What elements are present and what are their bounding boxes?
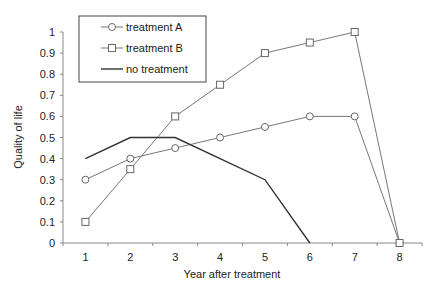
square-marker (396, 240, 403, 247)
y-tick-label: 0.5 (40, 132, 55, 144)
x-tick-label: 7 (352, 251, 358, 263)
legend-label: treatment A (126, 21, 183, 33)
series-line-treatment-A (85, 116, 399, 243)
y-tick-label: 0 (49, 237, 55, 249)
x-tick-label: 8 (397, 251, 403, 263)
x-tick-label: 4 (217, 251, 223, 263)
circle-marker (172, 145, 179, 152)
circle-marker (217, 134, 224, 141)
square-marker (351, 29, 358, 36)
circle-marker (261, 123, 268, 130)
x-tick-label: 6 (307, 251, 313, 263)
y-axis-label: Quality of life (12, 105, 24, 169)
y-tick-label: 0.4 (40, 153, 55, 165)
series-line-no-treatment (85, 138, 309, 244)
y-tick-label: 0.7 (40, 89, 55, 101)
circle-marker (82, 176, 89, 183)
square-marker (127, 166, 134, 173)
square-marker (217, 81, 224, 88)
circle-marker (351, 113, 358, 120)
square-marker-icon (109, 45, 116, 52)
legend-label: treatment B (126, 42, 183, 54)
y-tick-label: 0.1 (40, 216, 55, 228)
circle-marker-icon (109, 24, 116, 31)
circle-marker (306, 113, 313, 120)
y-tick-label: 0.6 (40, 110, 55, 122)
x-tick-label: 5 (262, 251, 268, 263)
square-marker (261, 50, 268, 57)
x-tick-label: 2 (127, 251, 133, 263)
circle-marker (127, 155, 134, 162)
square-marker (172, 113, 179, 120)
legend: treatment Atreatment Bno treatment (79, 16, 206, 82)
y-tick-label: 0.3 (40, 174, 55, 186)
y-tick-label: 0.2 (40, 195, 55, 207)
line-chart: 00.10.20.30.40.50.60.70.80.9112345678 tr… (0, 0, 438, 298)
legend-label: no treatment (126, 63, 188, 75)
y-tick-label: 0.8 (40, 68, 55, 80)
x-tick-label: 3 (172, 251, 178, 263)
x-axis-label: Year after treatment (184, 268, 281, 280)
x-tick-label: 1 (82, 251, 88, 263)
y-tick-label: 0.9 (40, 47, 55, 59)
square-marker (306, 39, 313, 46)
y-tick-label: 1 (49, 26, 55, 38)
square-marker (82, 218, 89, 225)
